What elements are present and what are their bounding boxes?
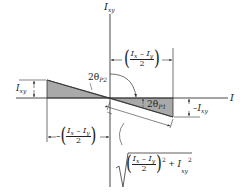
angle-2theta-p2-label: 2θP2 — [88, 73, 107, 83]
angle-2theta-p1-label: 2θP1 — [147, 100, 166, 110]
diagram-canvas — [0, 0, 242, 195]
vertical-axis-label: Ixy — [104, 2, 115, 13]
right-ixy-label: –Ixy — [193, 104, 208, 114]
left-ixy-label: Ixy — [16, 84, 26, 94]
radius-expression-label: (Ix – Iy2)2 + Ixy2 — [126, 155, 192, 174]
bottom-dimension-label: –(Ix – Iy2) — [56, 127, 96, 145]
horizontal-axis-label: I — [230, 93, 234, 103]
top-dimension-label: (Ix – Iy2) — [124, 50, 160, 68]
